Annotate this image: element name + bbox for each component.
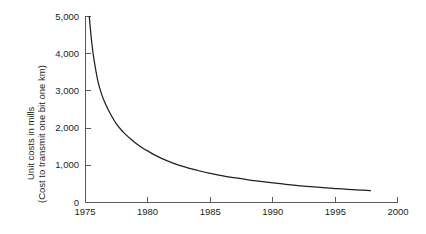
chart-canvas: Unit costs in mills (Cost to transmit on… <box>0 0 426 234</box>
x-tick-label-1980: 1980 <box>137 206 158 217</box>
y-axis-ticks <box>86 17 91 166</box>
x-tick-label-1975: 1975 <box>74 206 95 217</box>
x-tick-label-1995: 1995 <box>325 206 346 217</box>
y-axis-title-line1: Unit costs in mills <box>25 106 36 180</box>
y-tick-label-2000: 2,000 <box>55 122 79 133</box>
chart-figure: Unit costs in mills (Cost to transmit on… <box>0 0 426 234</box>
y-tick-label-4000: 4,000 <box>55 48 79 59</box>
cost-decline-curve <box>89 17 370 191</box>
y-tick-label-1000: 1,000 <box>55 159 79 170</box>
x-axis-ticks <box>148 197 398 203</box>
y-axis-title-line2: (Cost to transmit one bit one km) <box>36 65 47 203</box>
y-tick-label-5000: 5,000 <box>55 11 79 22</box>
y-tick-label-3000: 3,000 <box>55 85 79 96</box>
x-tick-label-2000: 2000 <box>387 206 408 217</box>
x-tick-label-1990: 1990 <box>262 206 283 217</box>
x-tick-label-1985: 1985 <box>200 206 221 217</box>
